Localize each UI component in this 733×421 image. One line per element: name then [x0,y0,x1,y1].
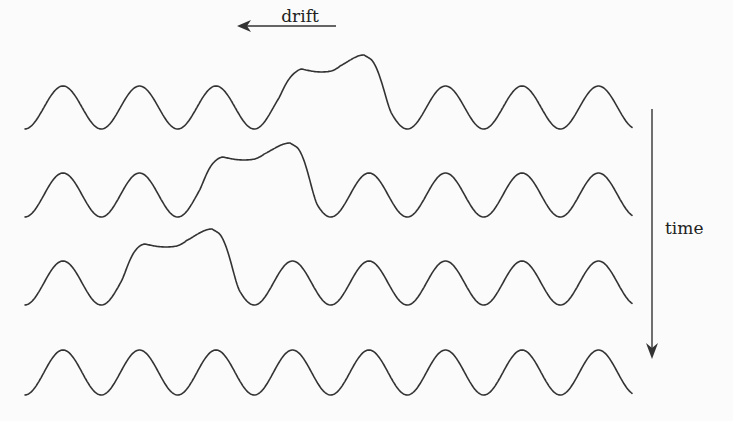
row-1-wave [25,55,632,129]
time-label: time [665,218,703,238]
time-arrow [646,109,658,359]
row-2-wave [25,143,632,217]
diagram-svg: drift time [0,0,733,421]
row-4-wave [25,350,632,395]
drift-label: drift [281,6,319,26]
wave-drift-diagram: drift time [0,0,733,421]
wave-rows [25,55,632,395]
row-3-wave [25,229,632,305]
